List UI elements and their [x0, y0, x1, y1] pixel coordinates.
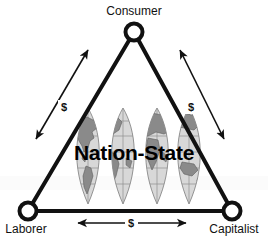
flow-label-bottom: $: [128, 217, 134, 229]
node-label-capitalist: Capitalist: [209, 222, 259, 236]
flow-label-left: $: [61, 101, 67, 113]
node-capitalist[interactable]: [224, 203, 241, 220]
node-laborer[interactable]: [20, 203, 37, 220]
center-label: Nation-State: [74, 141, 194, 164]
diagram-canvas: Nation-State $ $ $ Consumer Laborer Capi…: [0, 0, 268, 237]
node-label-laborer: Laborer: [5, 222, 46, 236]
flow-label-right: $: [188, 101, 194, 113]
node-consumer[interactable]: [126, 24, 143, 41]
node-label-consumer: Consumer: [106, 4, 161, 18]
